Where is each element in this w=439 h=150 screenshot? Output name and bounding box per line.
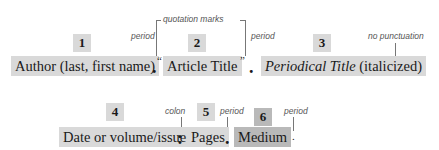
close-quote: ” bbox=[240, 54, 245, 66]
note-quotation-marks: quotation marks bbox=[163, 14, 223, 24]
article-title-field: Article Title bbox=[163, 56, 242, 76]
bracket-left-line bbox=[156, 20, 157, 56]
period-medium-line bbox=[293, 117, 294, 131]
number-4: 4 bbox=[106, 103, 124, 121]
period-after-pages: . bbox=[225, 128, 230, 148]
colon-separator: : bbox=[177, 128, 183, 148]
number-6: 6 bbox=[254, 108, 272, 126]
no-punctuation-line bbox=[395, 43, 396, 57]
period-after-medium: . bbox=[292, 130, 295, 142]
periodical-title-italic: Periodical Title bbox=[265, 58, 356, 74]
note-period-2: period bbox=[251, 31, 275, 41]
number-3: 3 bbox=[313, 34, 331, 52]
date-volume-field: Date or volume/issue bbox=[59, 127, 190, 147]
note-period-pages: period bbox=[220, 106, 244, 116]
number-1: 1 bbox=[73, 34, 91, 52]
period-after-title: . bbox=[249, 57, 254, 77]
note-period-1: period bbox=[131, 31, 155, 41]
author-field: Author (last, first name) bbox=[11, 56, 159, 76]
bracket-left-tick bbox=[156, 20, 161, 21]
note-colon: colon bbox=[165, 106, 185, 116]
periodical-title-suffix: (italicized) bbox=[356, 58, 422, 74]
periodical-title-field: Periodical Title (italicized) bbox=[261, 56, 426, 76]
bracket-right-line bbox=[245, 20, 246, 56]
open-quote: “ bbox=[157, 54, 162, 66]
pages-field: Pages bbox=[187, 127, 229, 147]
note-period-medium: period bbox=[284, 106, 308, 116]
number-5: 5 bbox=[197, 103, 215, 121]
note-no-punctuation: no punctuation bbox=[368, 31, 424, 41]
number-2: 2 bbox=[188, 34, 206, 52]
medium-field: Medium bbox=[234, 127, 291, 147]
period-after-author: . bbox=[152, 57, 157, 77]
